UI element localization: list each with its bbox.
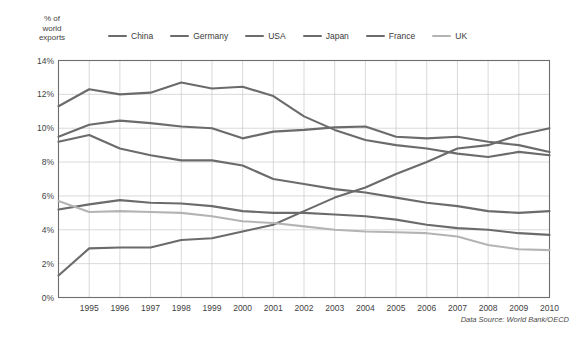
x-tick-label: 2008	[479, 303, 498, 313]
x-tick-label: 2001	[264, 303, 283, 313]
x-tick-label: 2007	[448, 303, 467, 313]
data-source-note: Data Source: World Bank/OECD	[461, 315, 569, 324]
x-tick-label: 2003	[325, 303, 344, 313]
x-tick-label: 2000	[233, 303, 252, 313]
x-tick-label: 2005	[387, 303, 406, 313]
x-tick-label: 2010	[540, 303, 559, 313]
x-tick-label: 1996	[110, 303, 129, 313]
plot-area	[0, 0, 584, 341]
x-tick-label: 2004	[356, 303, 375, 313]
x-tick-label: 2002	[295, 303, 314, 313]
exports-line-chart: % of world exports ChinaGermanyUSAJapanF…	[0, 0, 584, 341]
gridlines	[59, 61, 550, 298]
x-tick-label: 2006	[417, 303, 436, 313]
x-tick-label: 1995	[80, 303, 99, 313]
x-tick-label: 1999	[202, 303, 221, 313]
x-tick-label: 1998	[172, 303, 191, 313]
x-tick-label: 2009	[509, 303, 528, 313]
x-tick-label: 1997	[141, 303, 160, 313]
